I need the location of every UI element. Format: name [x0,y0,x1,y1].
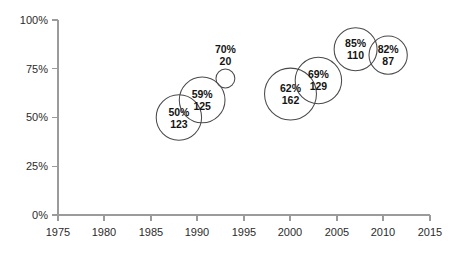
bubble-value-label: 110 [347,49,364,61]
bubble-value-label: 162 [282,94,300,106]
y-tick-label-25: 25% [26,160,48,172]
bubble-chart: 100% 75% 50% 25% 0% 1975 [0,0,457,256]
bubble-percent-label: 85% [345,37,367,49]
x-tick-label-1980: 1980 [92,226,116,238]
x-tick-label-1990: 1990 [185,226,209,238]
bubble-percent-label: 70% [215,43,237,55]
x-tick-label-1995: 1995 [232,226,256,238]
x-axis-ticks [58,215,430,221]
bubble-percent-label: 69% [308,68,330,80]
x-tick-label-2015: 2015 [418,226,442,238]
bubbles-layer: 50%12359%12570%2062%16269%12985%11082%87 [156,28,407,140]
x-tick-label-1985: 1985 [139,226,163,238]
chart-canvas: 100% 75% 50% 25% 0% 1975 [0,0,457,256]
y-tick-label-0: 0% [32,209,48,221]
y-tick-label-100: 100% [20,14,48,26]
bubble-percent-label: 59% [192,88,214,100]
bubble-value-label: 20 [220,55,232,67]
x-tick-label-2010: 2010 [371,226,395,238]
bubble-percent-label: 82% [378,43,400,55]
x-tick-label-2000: 2000 [278,226,302,238]
bubble-percent-label: 50% [168,106,190,118]
bubble-value-label: 123 [170,118,188,130]
bubble-70-20[interactable] [216,69,235,88]
x-axis: 1975 1980 1985 1990 1995 2000 2005 2010 … [46,215,442,238]
x-tick-label-1975: 1975 [46,226,70,238]
x-tick-label-2005: 2005 [325,226,349,238]
y-axis-ticks [52,20,58,215]
y-tick-label-50: 50% [26,111,48,123]
y-axis-labels: 100% 75% 50% 25% 0% [20,14,48,221]
x-axis-labels: 1975 1980 1985 1990 1995 2000 2005 2010 … [46,226,442,238]
bubble-value-label: 129 [310,80,328,92]
y-tick-label-75: 75% [26,63,48,75]
y-axis: 100% 75% 50% 25% 0% [20,14,58,221]
bubble-value-label: 125 [193,100,211,112]
bubble-value-label: 87 [382,55,394,67]
